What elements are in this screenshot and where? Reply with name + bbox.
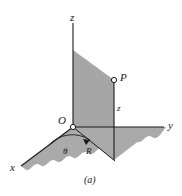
figure-root: z y x O P z R θ (a): [0, 0, 182, 196]
y-axis-label: y: [168, 120, 173, 131]
coordinate-system-diagram: [0, 0, 182, 196]
point-p-marker: [111, 77, 116, 82]
origin-label: O: [58, 115, 66, 126]
x-axis-label: x: [10, 162, 15, 173]
radius-r-label: R: [86, 147, 92, 156]
point-p-label: P: [120, 72, 127, 83]
height-z-label: z: [117, 104, 121, 113]
z-axis-label: z: [70, 12, 74, 23]
figure-caption: (a): [84, 174, 96, 185]
angle-theta-label: θ: [63, 147, 67, 156]
origin-marker: [70, 124, 75, 129]
